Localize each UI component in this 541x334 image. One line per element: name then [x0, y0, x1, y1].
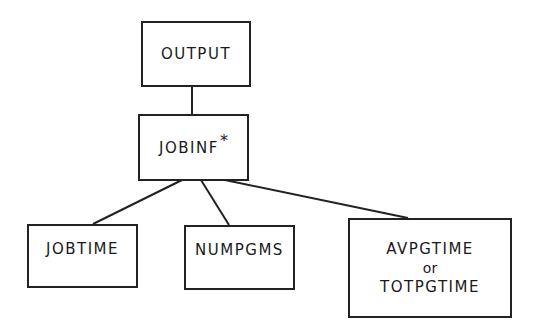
- edge-jobinf-jobtime: [93, 180, 182, 224]
- node-totpgtime-label: TOTPGTIME: [380, 278, 480, 296]
- node-jobinf: JOBINF*: [138, 114, 249, 181]
- node-pgtime: AVPGTIME or TOTPGTIME: [348, 218, 512, 318]
- node-avpgtime-label: AVPGTIME: [386, 240, 474, 258]
- node-numpgms-label: NUMPGMS: [195, 241, 284, 259]
- node-numpgms: NUMPGMS: [184, 225, 295, 290]
- edge-jobinf-pgtime: [225, 180, 408, 218]
- asterisk-marker: *: [220, 131, 228, 150]
- node-output: OUTPUT: [141, 21, 251, 87]
- node-output-label: OUTPUT: [161, 45, 231, 63]
- node-jobinf-label: JOBINF: [159, 139, 219, 157]
- node-jobtime: JOBTIME: [27, 224, 138, 288]
- or-connector-text: or: [423, 260, 437, 276]
- edge-jobinf-numpgms: [201, 180, 229, 225]
- node-jobtime-label: JOBTIME: [46, 240, 119, 258]
